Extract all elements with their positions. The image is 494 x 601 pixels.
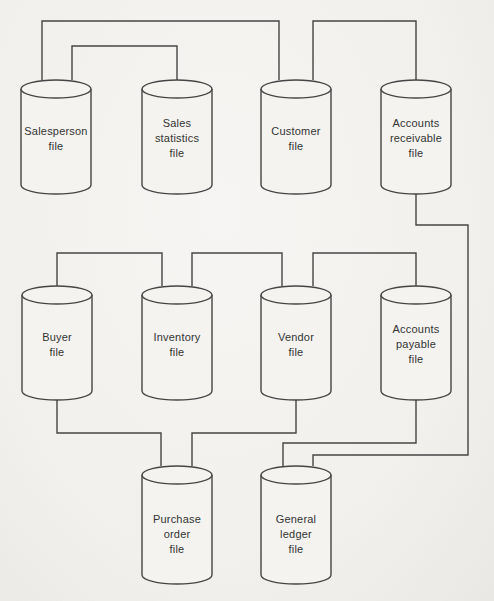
- cylinder-inventory-file: Inventoryfile: [142, 286, 212, 400]
- cylinder-accounts-receivable-file: Accountsreceivablefile: [381, 80, 451, 194]
- connector-buyer-to-purchase-order: [57, 400, 161, 466]
- connector-inventory-to-vendor: [192, 253, 282, 286]
- cylinder-customer-file: Customerfile: [261, 80, 331, 194]
- cylinder-top-ellipse: [142, 286, 212, 304]
- cylinder-salesperson-file: Salespersonfile: [21, 80, 91, 194]
- cylinder-top-ellipse: [21, 80, 91, 98]
- cylinder-top-ellipse: [142, 466, 212, 484]
- cylinder-buyer-file: Buyerfile: [22, 286, 92, 400]
- cylinder-top-ellipse: [22, 286, 92, 304]
- connector-salesperson-to-customer: [42, 21, 279, 80]
- cylinder-top-ellipse: [261, 286, 331, 304]
- connector-vendor-to-accounts-payable: [313, 253, 416, 286]
- cylinder-top-ellipse: [381, 80, 451, 98]
- cylinder-top-ellipse: [142, 80, 212, 98]
- figure-page: SalespersonfileSalesstatisticsfileCustom…: [0, 0, 494, 601]
- cylinder-sales-statistics-file: Salesstatisticsfile: [142, 80, 212, 194]
- flat-file-system-diagram: SalespersonfileSalesstatisticsfileCustom…: [0, 0, 494, 601]
- cylinder-accounts-payable-file: Accountspayablefile: [381, 286, 451, 400]
- connector-buyer-to-inventory: [57, 253, 162, 286]
- connector-customer-to-accounts-receivable: [313, 21, 416, 80]
- connector-accounts-payable-to-general-ledger: [283, 400, 416, 466]
- cylinder-purchase-order-file: Purchaseorderfile: [142, 466, 212, 584]
- cylinder-top-ellipse: [381, 286, 451, 304]
- cylinder-vendor-file: Vendorfile: [261, 286, 331, 400]
- cylinder-top-ellipse: [261, 466, 331, 484]
- cylinder-general-ledger-file: Generalledgerfile: [261, 466, 331, 584]
- connector-vendor-to-purchase-order: [192, 400, 296, 466]
- connector-salesperson-to-sales-statistics: [72, 46, 177, 80]
- cylinder-top-ellipse: [261, 80, 331, 98]
